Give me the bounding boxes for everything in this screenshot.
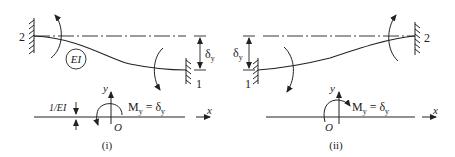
deflection-label: δy [205,47,215,63]
moment-label: My = δy [128,100,165,116]
node-label-right: 2 [424,31,430,45]
fixed-support-1-icon [186,58,191,84]
x-axis-label: x [206,104,212,116]
load-label: 1/EI [49,102,67,113]
x-axis-label: x [432,104,438,116]
deflected-beam [34,36,186,70]
deflection-dimension [243,36,255,70]
node-label-left: 2 [19,30,25,44]
applied-moment-arrow-icon [324,100,350,122]
fixed-support-2-icon [415,22,420,55]
panel-i: 2 1 δy EI [19,15,215,152]
origin-label: O [325,121,333,133]
caption-i: (i) [102,139,113,152]
y-axis-label: y [329,82,335,94]
beam-diagram-svg: 2 1 δy EI [0,0,455,157]
fixed-support-2-icon [29,18,34,54]
y-axis-label: y [102,82,108,94]
beam-stiffness-label: EI [70,53,83,65]
node-label-right: 1 [196,77,202,91]
figure: 2 1 δy EI [0,0,455,157]
rotation-arrow-right-icon [389,15,398,61]
rotation-arrow-left-icon [284,47,293,92]
deflection-label: δy [233,46,243,62]
origin-label: O [114,121,122,133]
panel-ii: δy 1 2 x [233,15,438,152]
caption-ii: (ii) [329,139,343,152]
fixed-support-1-icon [253,58,258,84]
moment-label: My = δy [352,100,389,116]
node-label-left: 1 [245,77,251,91]
rotation-arrow-left-icon [51,15,61,58]
